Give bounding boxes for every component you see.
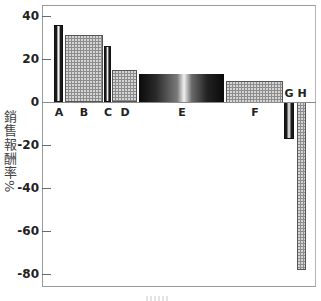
y-tick-label: -60 bbox=[3, 225, 39, 237]
y-tick bbox=[42, 188, 51, 189]
bar-g bbox=[284, 102, 294, 139]
zero-line bbox=[42, 102, 316, 103]
y-tick bbox=[42, 59, 51, 60]
bar-c bbox=[104, 46, 111, 102]
bar-b bbox=[65, 35, 103, 102]
category-label: E bbox=[172, 107, 192, 118]
bar-d bbox=[112, 70, 137, 102]
y-tick-label: 40 bbox=[3, 10, 39, 22]
y-axis-label: 銷售報酬率% bbox=[3, 110, 17, 193]
category-label: F bbox=[245, 107, 265, 118]
category-label: D bbox=[115, 107, 135, 118]
y-tick-label: 0 bbox=[3, 96, 39, 108]
y-tick bbox=[42, 16, 51, 17]
y-tick-label: 20 bbox=[3, 53, 39, 65]
bar-a bbox=[54, 25, 63, 102]
y-tick bbox=[42, 231, 51, 232]
x-axis-label-cropped bbox=[146, 296, 170, 301]
y-tick bbox=[42, 145, 51, 146]
bar-f bbox=[226, 81, 283, 103]
y-tick bbox=[42, 274, 51, 275]
bar-e bbox=[139, 74, 224, 102]
category-label: A bbox=[49, 107, 69, 118]
y-tick-label: -80 bbox=[3, 268, 39, 280]
bar-h bbox=[297, 102, 306, 270]
bar-chart: 40200-20-40-60-80 ABCDEFGH 銷售報酬率% bbox=[0, 0, 321, 301]
category-label: B bbox=[74, 107, 94, 118]
category-label: H bbox=[292, 88, 312, 99]
